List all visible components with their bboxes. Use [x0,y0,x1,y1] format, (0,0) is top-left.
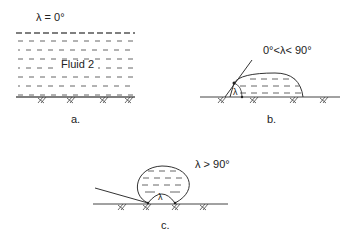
contact-angle-diagram: λ = 0° Fluid 2 a. 0°<λ< 90° [0,0,351,240]
panel-a-caption: a. [71,113,80,125]
panel-b-caption: b. [267,113,276,125]
droplet-dashes [240,79,302,93]
panel-b: 0°<λ< 90° λ b. [200,44,340,125]
droplet-dashes [142,171,186,192]
ground-hatch [38,97,133,103]
panel-c: λ > 90° λ c. [93,158,230,231]
ground-hatch [218,97,328,103]
panel-a: λ = 0° Fluid 2 a. [16,11,135,125]
fluid-label: Fluid 2 [61,58,94,70]
panel-c-caption: c. [161,219,170,231]
panel-b-angle-label: 0°<λ< 90° [263,44,312,56]
panel-c-angle-symbol: λ [158,192,163,202]
panel-a-angle-label: λ = 0° [36,11,65,23]
ground-hatch [118,204,208,210]
panel-b-angle-symbol: λ [233,87,238,97]
panel-c-angle-label: λ > 90° [195,158,230,170]
